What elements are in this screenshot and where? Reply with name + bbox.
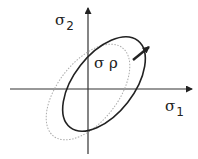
yield-surface-diagram — [0, 0, 198, 159]
translated-yield-ellipse — [46, 22, 161, 146]
sigma1-subscript: 1 — [176, 105, 184, 119]
sigma2-label: σ2 — [55, 12, 74, 28]
sigma-rho-label: σ ρ — [94, 56, 118, 71]
translation-arrow — [133, 47, 149, 60]
sigma2-subscript: 2 — [66, 19, 74, 33]
sigma1-symbol: σ — [165, 97, 175, 115]
sigma1-label: σ1 — [165, 98, 184, 114]
sigma2-symbol: σ — [55, 11, 65, 29]
